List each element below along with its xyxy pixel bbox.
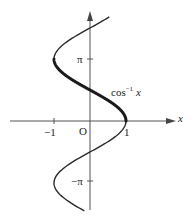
x-axis-label: x	[178, 113, 183, 124]
curve-label-exponent: −1	[126, 85, 133, 93]
curve-label-base: cos	[111, 86, 126, 98]
curve-label-var: x	[136, 86, 141, 98]
y-tick-label-neg-pi: −π	[71, 176, 83, 187]
x-tick-label-neg1: −1	[44, 127, 56, 138]
origin-label: O	[79, 126, 87, 137]
x-axis-arrow-icon	[166, 118, 176, 124]
x-tick-label-1: 1	[124, 127, 130, 138]
arccos-diagram: π −π −1 1 O x cos−1 x	[0, 0, 192, 218]
y-axis-arrow-icon	[87, 11, 93, 21]
diagram-canvas	[0, 0, 192, 218]
curve-label: cos−1 x	[111, 86, 141, 98]
y-tick-label-pi: π	[77, 54, 83, 65]
